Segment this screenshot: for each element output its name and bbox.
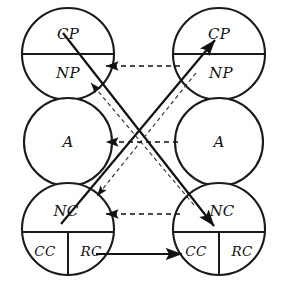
ego-state-left-child[interactable]: NC CC RC bbox=[22, 183, 114, 275]
ego-state-diagram: CP NP A NC CC RC bbox=[0, 0, 282, 283]
person-left: CP NP A NC CC RC bbox=[22, 8, 114, 275]
label-right-rc: RC bbox=[230, 243, 252, 259]
label-right-cc: CC bbox=[185, 243, 207, 259]
ego-state-right-adult[interactable]: A bbox=[175, 98, 263, 186]
label-right-nc: NC bbox=[208, 202, 234, 220]
label-right-cp: CP bbox=[208, 25, 231, 43]
ego-state-diagram-canvas: CP NP A NC CC RC bbox=[0, 0, 282, 283]
label-right-np: NP bbox=[208, 64, 233, 82]
ego-state-left-parent[interactable]: CP NP bbox=[22, 8, 114, 100]
ego-state-right-parent[interactable]: CP NP bbox=[173, 8, 265, 100]
person-right: CP NP A NC CC RC bbox=[173, 8, 265, 275]
label-left-rc: RC bbox=[79, 243, 101, 259]
label-right-a: A bbox=[211, 133, 224, 151]
ego-state-left-adult[interactable]: A bbox=[24, 98, 112, 186]
label-left-cc: CC bbox=[34, 243, 56, 259]
label-left-a: A bbox=[60, 133, 73, 151]
label-left-np: NP bbox=[55, 64, 80, 82]
